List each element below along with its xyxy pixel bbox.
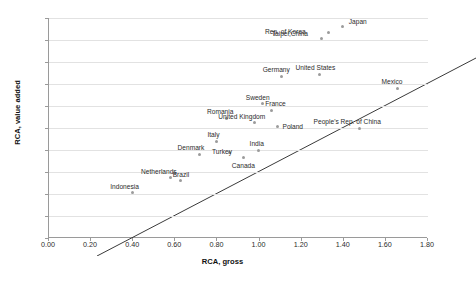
gridline: [49, 40, 428, 41]
data-point: [327, 31, 330, 34]
gridline: [49, 106, 428, 107]
gridline: [49, 128, 428, 129]
data-point-label: Brazil: [173, 171, 190, 178]
x-tick-label: 1.60: [365, 241, 405, 249]
y-tick-mark: [45, 62, 48, 63]
data-point-label: United States: [296, 64, 336, 71]
y-tick-mark: [45, 216, 48, 217]
x-tick-label: 0.00: [28, 241, 68, 249]
data-point-label: Denmark: [178, 144, 205, 151]
data-point-label: India: [250, 140, 264, 147]
gridline: [49, 62, 428, 63]
data-point-label: United Kingdom: [218, 113, 265, 120]
x-tick-label: 0.80: [196, 241, 236, 249]
data-point-label: Turkey: [212, 148, 232, 155]
data-point-label: Poland: [283, 123, 304, 130]
data-point: [396, 87, 399, 90]
data-point-label: Canada: [232, 162, 255, 169]
x-tick-label: 1.40: [323, 241, 363, 249]
y-tick-mark: [45, 194, 48, 195]
data-point: [169, 176, 172, 179]
data-point-label: France: [265, 100, 286, 107]
y-tick-mark: [45, 128, 48, 129]
gridline: [49, 194, 428, 195]
data-point-label: Italy: [207, 131, 219, 138]
x-tick-label: 0.40: [112, 241, 152, 249]
x-tick-label: 0.60: [154, 241, 194, 249]
data-point: [198, 153, 201, 156]
data-point-label: Indonesia: [110, 183, 139, 190]
y-tick-mark: [45, 106, 48, 107]
data-point: [215, 140, 218, 143]
y-tick-mark: [45, 84, 48, 85]
data-point: [253, 121, 256, 124]
gridline: [49, 216, 428, 217]
gridline: [49, 150, 428, 151]
data-point: [257, 149, 260, 152]
y-tick-mark: [45, 150, 48, 151]
gridline: [49, 84, 428, 85]
data-point-label: Mexico: [382, 78, 403, 85]
data-point-label: Japan: [349, 18, 367, 25]
x-tick-label: 1.80: [407, 241, 447, 249]
data-point-label: Netherlands: [141, 168, 177, 175]
x-axis-title: RCA, gross: [0, 257, 445, 266]
x-tick-label: 1.00: [239, 241, 279, 249]
y-axis-title: RCA, value added: [13, 33, 22, 193]
x-tick-label: 1.20: [281, 241, 321, 249]
x-tick-label: 0.20: [70, 241, 110, 249]
data-point: [358, 127, 361, 130]
plot-area: [48, 18, 427, 238]
data-point-label: Taipei,China: [272, 30, 308, 37]
y-tick-mark: [45, 172, 48, 173]
y-tick-mark: [45, 40, 48, 41]
data-point-label: People's Rep. of China: [314, 118, 381, 125]
data-point: [270, 109, 273, 112]
data-point: [318, 73, 321, 76]
gridline: [49, 172, 428, 173]
y-tick-mark: [45, 18, 48, 19]
gridline: [49, 18, 428, 19]
data-point-label: Germany: [263, 66, 290, 73]
